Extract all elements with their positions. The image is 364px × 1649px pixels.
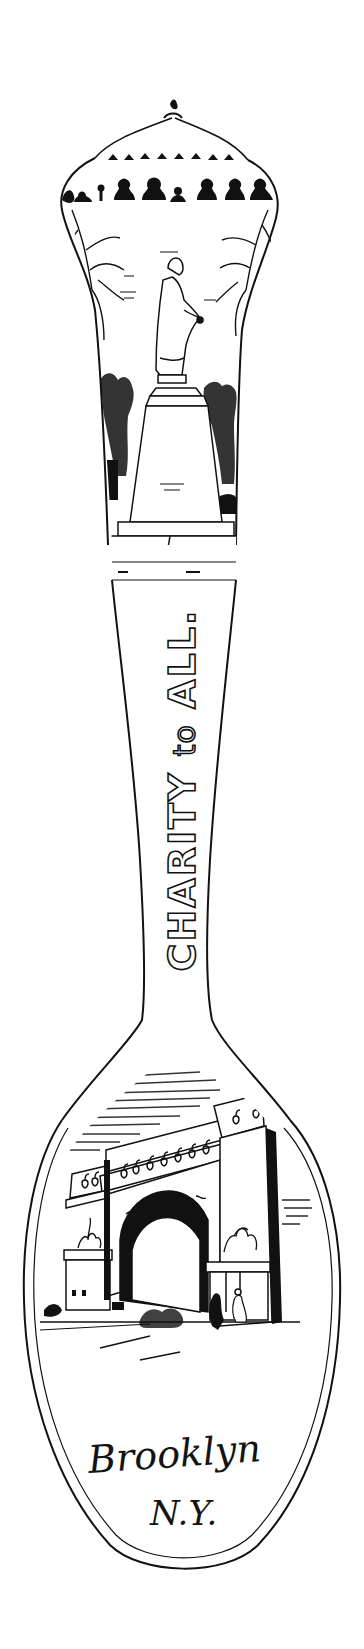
- inscription-to: to: [167, 724, 202, 756]
- statue: [156, 258, 203, 383]
- portrait-busts: [62, 177, 273, 203]
- arch-scene: [40, 1072, 312, 1360]
- handle-band: [112, 562, 236, 580]
- statue-scene: [64, 210, 276, 556]
- inscription-charity: CHARITY: [160, 771, 204, 971]
- arch: [64, 1094, 272, 1326]
- inscription-all: ALL.: [160, 609, 204, 709]
- handle-inscription: CHARITY to ALL.: [160, 609, 204, 972]
- bowl-state-text: N.Y.: [150, 1493, 217, 1533]
- crown-dots: [108, 153, 234, 160]
- spoon-illustration: CHARITY to ALL. Brooklyn N.Y.: [0, 0, 364, 1649]
